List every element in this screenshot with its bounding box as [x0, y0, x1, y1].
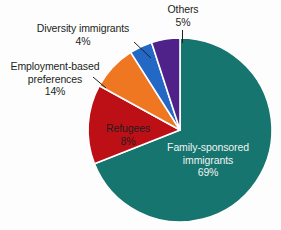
slice-label-family-pct: 69%: [154, 166, 262, 179]
slice-label-family-line2: immigrants: [154, 154, 262, 167]
slice-label-employment-line1: Employment-based: [11, 60, 100, 72]
slice-label-family-line1: Family-sponsored: [167, 141, 249, 153]
slice-label-others-pct: 5%: [152, 16, 214, 29]
leader-line-others: [182, 30, 183, 43]
slice-label-diversity: Diversity immigrants 4%: [24, 22, 142, 47]
slice-label-family: Family-sponsored immigrants 69%: [154, 141, 262, 179]
pie-chart: Others 5% Diversity immigrants 4% Employ…: [0, 0, 281, 230]
leader-line-employment: [92, 76, 110, 92]
slice-label-diversity-pct: 4%: [24, 35, 142, 48]
slice-label-others-name: Others: [168, 3, 199, 15]
leader-line-diversity: [133, 41, 157, 61]
slice-label-refugees-name: Refugees: [106, 122, 150, 134]
slice-label-diversity-name: Diversity immigrants: [37, 22, 130, 34]
slice-label-others: Others 5%: [152, 3, 214, 28]
